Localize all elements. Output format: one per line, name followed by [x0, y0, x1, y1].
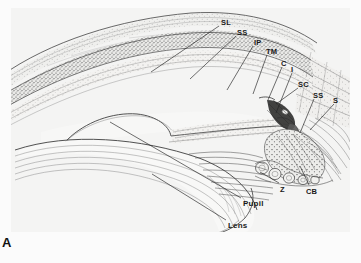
anatomy-plate: SLSSIPTMCISCSSSZCBPupilLens [11, 8, 350, 232]
label-c: C [281, 60, 287, 68]
label-z: Z [280, 186, 285, 194]
label-sc: SC [298, 81, 309, 89]
label-ss1: SS [237, 29, 247, 37]
label-pupil: Pupil [243, 200, 264, 208]
label-cb: CB [306, 188, 317, 196]
label-s: S [333, 97, 338, 105]
label-tm: TM [266, 48, 277, 56]
figure-root: SLSSIPTMCISCSSSZCBPupilLens A [0, 0, 361, 263]
label-ss2: SS [313, 92, 323, 100]
panel-letter-a: A [2, 236, 11, 249]
label-ip: IP [254, 39, 262, 47]
label-lens: Lens [228, 222, 247, 230]
anatomy-drawing [11, 8, 350, 232]
label-sl: SL [221, 19, 231, 27]
label-i: I [291, 66, 293, 74]
